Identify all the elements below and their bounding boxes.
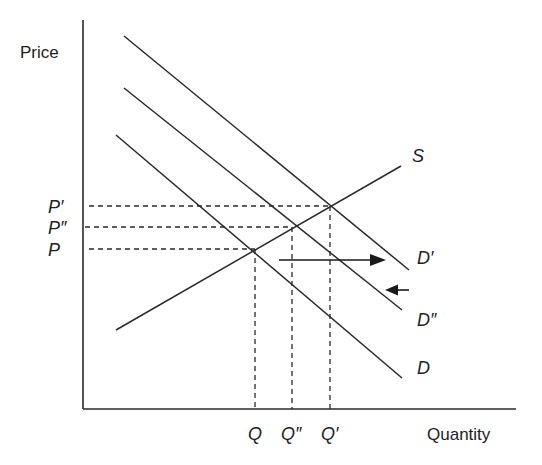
x-axis-label: Quantity xyxy=(427,425,491,444)
supply-demand-diagram: Price Quantity S D′ D″ D P′ P″ P Q Q″ Q′ xyxy=(0,0,542,465)
label-supply: S xyxy=(412,146,424,166)
demand-curve-d-prime xyxy=(124,36,409,270)
supply-curve-s xyxy=(116,166,401,330)
qty-tick-q-prime: Q′ xyxy=(321,424,339,444)
curves xyxy=(116,36,409,378)
demand-curve-d xyxy=(116,135,402,378)
label-demand-prime: D′ xyxy=(417,248,434,268)
price-tick-p-prime: P′ xyxy=(48,197,64,217)
y-axis-label: Price xyxy=(20,43,59,62)
right-arrow-head-icon xyxy=(370,254,386,266)
demand-curve-d-double-prime xyxy=(124,88,402,310)
equilibrium-guides xyxy=(85,206,330,409)
label-demand: D xyxy=(417,358,430,378)
qty-tick-q-double-prime: Q″ xyxy=(281,424,302,444)
axes xyxy=(83,20,516,409)
qty-tick-q: Q xyxy=(248,424,262,444)
price-tick-p-double-prime: P″ xyxy=(48,218,67,238)
left-arrow-head-icon xyxy=(385,285,398,296)
label-demand-double-prime: D″ xyxy=(417,310,437,330)
price-tick-p: P xyxy=(48,240,60,260)
